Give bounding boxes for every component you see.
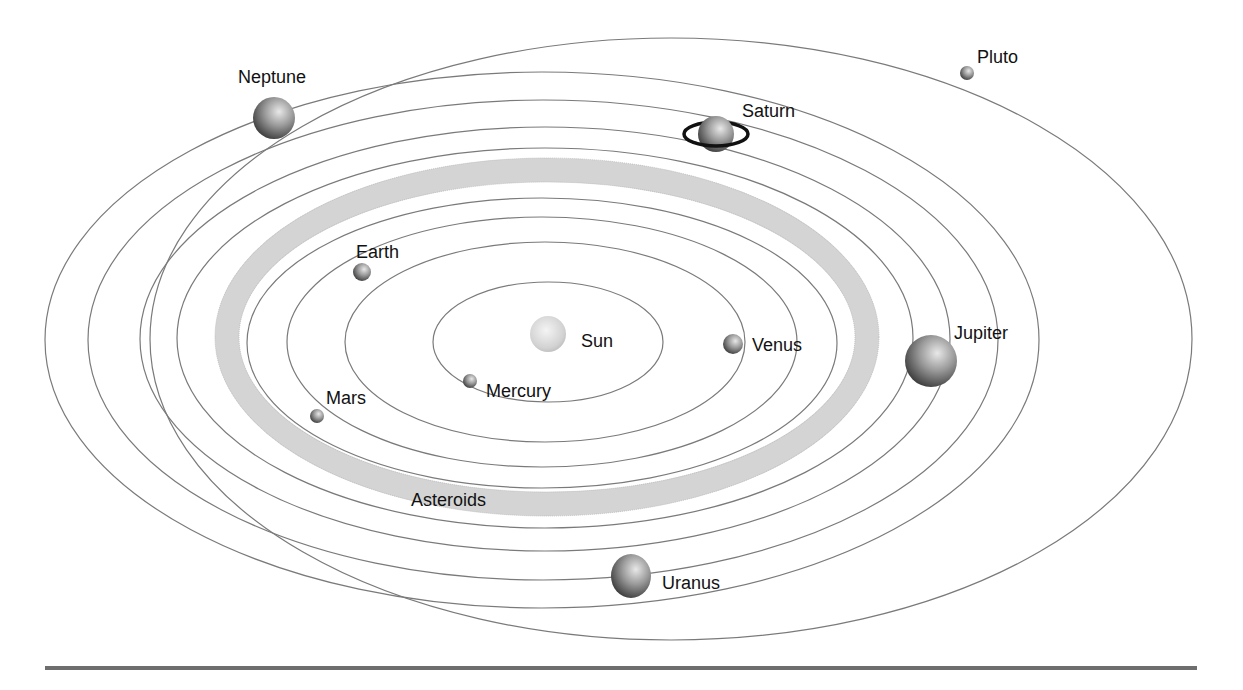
planet-jupiter [905, 335, 957, 387]
sun [530, 316, 566, 352]
label-asteroids: Asteroids [411, 490, 486, 510]
planet-neptune [253, 97, 295, 139]
orbits [45, 38, 1192, 640]
label-venus: Venus [752, 335, 802, 355]
bottom-rule [45, 666, 1197, 670]
label-jupiter: Jupiter [954, 323, 1008, 343]
label-uranus: Uranus [662, 573, 720, 593]
label-saturn: Saturn [742, 101, 795, 121]
labels: Neptune Pluto Saturn Earth Sun Venus Jup… [238, 47, 1018, 593]
planet-saturn [684, 116, 748, 152]
label-mars: Mars [326, 388, 366, 408]
planet-pluto [960, 66, 974, 80]
planet-uranus [611, 554, 651, 598]
label-pluto: Pluto [977, 47, 1018, 67]
label-sun: Sun [581, 331, 613, 351]
solar-system-diagram: Neptune Pluto Saturn Earth Sun Venus Jup… [0, 0, 1243, 690]
label-neptune: Neptune [238, 67, 306, 87]
planet-venus [723, 334, 743, 354]
planet-mercury [463, 374, 477, 388]
orbit-pluto [150, 38, 1192, 640]
label-mercury: Mercury [486, 381, 551, 401]
label-earth: Earth [356, 242, 399, 262]
planet-earth [353, 263, 371, 281]
planet-mars [310, 409, 324, 423]
